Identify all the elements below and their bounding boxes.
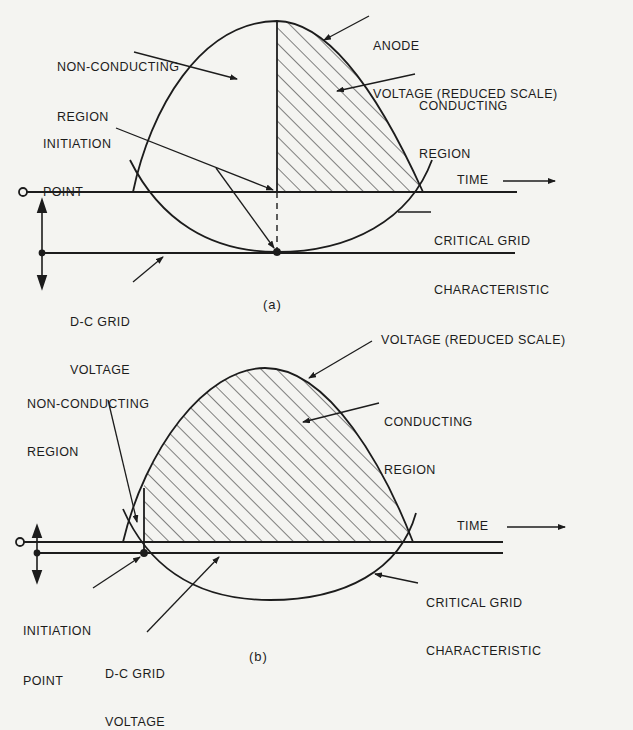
label-initiation-a: INITIATION POINT: [43, 107, 111, 215]
label-line: NON-CONDUCTING: [27, 397, 149, 412]
caption-a: (a): [263, 297, 282, 312]
label-time-a: TIME: [457, 173, 488, 188]
label-line: POINT: [43, 185, 111, 200]
origin-circle-b: [16, 538, 24, 546]
leader-anode-a: [324, 16, 369, 40]
leader-voltage-b: [309, 341, 372, 378]
label-line: CONDUCTING: [384, 415, 473, 430]
label-dc-grid-b: D-C GRID VOLTAGE: [105, 637, 165, 730]
origin-circle-a: [19, 188, 27, 196]
label-line: INITIATION: [43, 137, 111, 152]
label-line: REGION: [419, 147, 508, 162]
label-line: CONDUCTING: [419, 99, 508, 114]
label-line: CRITICAL GRID: [426, 596, 541, 611]
initiation-point-dot-b: [141, 550, 147, 556]
leader-dc-grid-a: [133, 257, 163, 282]
label-time-b: TIME: [457, 519, 488, 534]
leader-initiation-b: [93, 557, 140, 588]
label-initiation-b: INITIATION POINT: [23, 594, 91, 704]
leader-dc-grid-b: [147, 557, 219, 632]
label-line: POINT: [23, 674, 91, 689]
label-line: REGION: [27, 445, 149, 460]
leader-initiation-2-a: [216, 168, 274, 248]
label-conducting-a: CONDUCTING REGION: [419, 69, 508, 177]
label-line: CRITICAL GRID: [434, 234, 549, 249]
label-line: CHARACTERISTIC: [426, 644, 541, 659]
double-arrow-icon-b: [33, 526, 41, 582]
label-line: D-C GRID: [105, 667, 165, 682]
leader-critical-b: [375, 574, 418, 583]
label-non-conducting-b: NON-CONDUCTING REGION: [27, 367, 149, 475]
label-voltage-b: VOLTAGE (REDUCED SCALE): [381, 333, 565, 348]
label-line: CHARACTERISTIC: [434, 283, 549, 298]
label-line: D-C GRID: [70, 315, 130, 330]
conducting-region-hatch-b: [123, 368, 413, 542]
label-line: VOLTAGE: [105, 715, 165, 730]
label-conducting-b: CONDUCTING REGION: [384, 385, 473, 493]
label-line: INITIATION: [23, 624, 91, 639]
caption-b: (b): [249, 649, 268, 664]
label-line: NON-CONDUCTING: [57, 60, 179, 75]
initiation-point-dot-a: [274, 249, 280, 255]
label-line: REGION: [384, 463, 473, 478]
label-critical-grid-b: CRITICAL GRID CHARACTERISTIC: [426, 566, 541, 674]
label-line: ANODE: [373, 39, 557, 54]
label-critical-grid-a: CRITICAL GRID CHARACTERISTIC: [434, 204, 549, 313]
